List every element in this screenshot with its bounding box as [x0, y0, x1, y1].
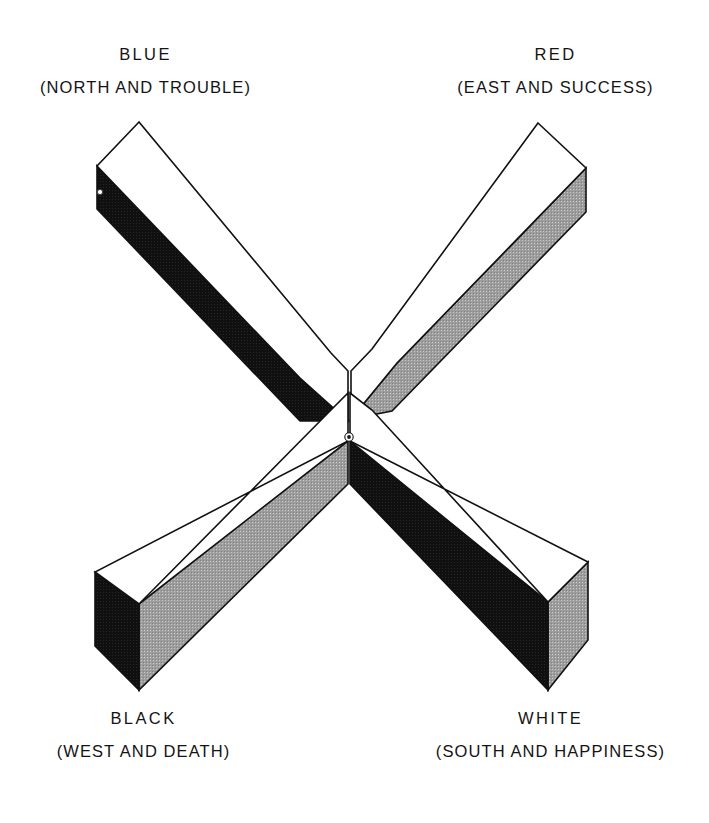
arm-upper-left: [97, 122, 348, 421]
arm-upper-right-side-face: [351, 168, 586, 419]
figure-root: BLUE (NORTH AND TROUBLE) RED (EAST AND S…: [0, 0, 709, 823]
label-red-detail: (EAST AND SUCCESS): [418, 79, 693, 96]
label-white-title: WHITE: [408, 710, 693, 727]
label-blue-detail: (NORTH AND TROUBLE): [8, 79, 283, 96]
arm-upper-right-top-face: [351, 123, 586, 419]
center-dot-icon: [345, 433, 353, 441]
label-black-title: BLACK: [6, 710, 281, 727]
label-white: WHITE (SOUTH AND HAPPINESS): [408, 710, 693, 759]
arm-lower-left: [95, 393, 348, 690]
arm-upper-right: [351, 123, 586, 419]
label-white-detail: (SOUTH AND HAPPINESS): [408, 743, 693, 760]
label-red-title: RED: [418, 46, 693, 63]
arm-upper-left-top-face: [97, 122, 348, 421]
label-blue-title: BLUE: [8, 46, 283, 63]
cross-diagram: [0, 0, 709, 823]
label-red: RED (EAST AND SUCCESS): [418, 46, 693, 95]
label-blue: BLUE (NORTH AND TROUBLE): [8, 46, 283, 95]
registration-dot-icon: [97, 189, 102, 194]
label-black-detail: (WEST AND DEATH): [6, 743, 281, 760]
arm-lower-right: [350, 393, 588, 690]
label-black: BLACK (WEST AND DEATH): [6, 710, 281, 759]
